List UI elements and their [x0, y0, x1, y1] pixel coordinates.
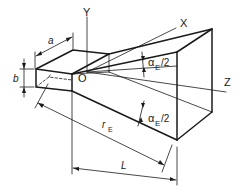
angle-upper-symbol: α	[148, 56, 155, 68]
angle-lower-symbol: α	[148, 112, 155, 124]
aperture-top-edge	[177, 29, 212, 52]
z-axis	[87, 72, 226, 92]
x-axis-label: X	[180, 17, 188, 29]
angle-upper-suffix: /2	[161, 57, 170, 68]
angle-upper: α E /2	[141, 52, 170, 77]
flare-top-back-edge	[109, 29, 212, 54]
angle-upper-sub: E	[155, 63, 160, 72]
horn-antenna-diagram: Y X Z O a b α E /2 α	[0, 0, 242, 192]
flare-bottom-back-edge	[109, 72, 212, 112]
y-axis-label: Y	[83, 6, 91, 18]
dimension-b-label: b	[13, 73, 19, 84]
waveguide-hidden-edge	[36, 77, 72, 87]
horn-flare	[72, 29, 212, 140]
waveguide	[36, 50, 109, 91]
aperture-bottom-edge	[177, 112, 212, 140]
dimension-a-label: a	[48, 35, 54, 46]
dimension-rE-sub: E	[108, 126, 113, 133]
origin-label: O	[78, 72, 87, 84]
z-axis-label: Z	[224, 76, 231, 88]
waveguide-front-face	[36, 69, 72, 91]
angle-lower-sub: E	[155, 119, 160, 128]
dimension-L-label: L	[121, 160, 127, 171]
dimension-b: b	[13, 59, 34, 97]
dimension-rE-label: r	[102, 119, 106, 130]
dimension-L: L	[72, 92, 177, 185]
angle-lower-suffix: /2	[161, 113, 170, 124]
dimension-rE-line	[38, 103, 164, 165]
dimension-a: a	[35, 33, 73, 68]
axes: Y X Z O	[78, 6, 231, 92]
